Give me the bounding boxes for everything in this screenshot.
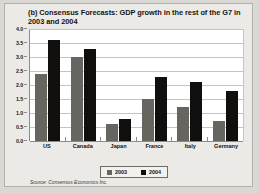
y-tick-label: 1.5 (16, 96, 23, 102)
bar-germany-2004 (226, 91, 238, 141)
bar-group (101, 30, 137, 141)
bar-france-2003 (142, 99, 154, 141)
x-tick-label-canada: Canada (65, 143, 101, 153)
chart-legend: 20032004 (100, 166, 168, 178)
y-tick-mark (24, 98, 27, 99)
bar-group (30, 30, 66, 141)
legend-item-2004: 2004 (141, 169, 161, 175)
y-tick-label: 0.0 (16, 138, 23, 144)
gridline (30, 141, 243, 142)
y-tick-mark (24, 84, 27, 85)
bar-canada-2003 (71, 57, 83, 141)
y-tick-label: 0.5 (16, 124, 23, 130)
x-tick-label-japan: Japan (101, 143, 137, 153)
y-tick-mark (24, 28, 27, 29)
legend-swatch-2004 (141, 170, 146, 175)
bar-us-2004 (48, 40, 60, 141)
y-tick-label: 2.0 (16, 82, 23, 88)
y-tick-mark (24, 140, 27, 141)
x-axis-labels: USCanadaJapanFranceItalyGermany (29, 143, 244, 153)
legend-item-2003: 2003 (107, 169, 127, 175)
bar-japan-2003 (106, 124, 118, 141)
chart-title: (b) Consensus Forecasts: GDP growth in t… (28, 8, 243, 27)
bar-group (137, 30, 173, 141)
source-note: Source: Consensus Economics Inc. (30, 179, 107, 185)
bar-group (208, 30, 244, 141)
x-tick-label-us: US (29, 143, 65, 153)
y-tick-label: 1.0 (16, 110, 23, 116)
bar-italy-2003 (177, 107, 189, 141)
y-tick-mark (24, 42, 27, 43)
y-tick-mark (24, 126, 27, 127)
legend-swatch-2003 (107, 170, 112, 175)
bar-italy-2004 (190, 82, 202, 141)
bar-us-2003 (35, 74, 47, 141)
y-tick-label: 4.0 (16, 26, 23, 32)
y-tick-mark (24, 70, 27, 71)
bar-groups (30, 30, 243, 141)
y-axis-labels: 0.00.51.01.52.02.53.03.54.0 (5, 29, 27, 141)
plot-area (29, 29, 244, 141)
bar-group (66, 30, 102, 141)
y-tick-label: 3.0 (16, 54, 23, 60)
bar-group (172, 30, 208, 141)
bar-france-2004 (155, 77, 167, 141)
legend-label-2003: 2003 (115, 169, 127, 175)
y-tick-mark (24, 56, 27, 57)
y-tick-mark (24, 112, 27, 113)
bar-germany-2003 (213, 121, 225, 141)
x-tick-label-germany: Germany (208, 143, 244, 153)
bar-japan-2004 (119, 119, 131, 141)
figure-panel: (b) Consensus Forecasts: GDP growth in t… (4, 3, 253, 187)
y-tick-label: 3.5 (16, 40, 23, 46)
x-tick-label-france: France (136, 143, 172, 153)
legend-label-2004: 2004 (149, 169, 161, 175)
bar-canada-2004 (84, 49, 96, 141)
x-tick-label-italy: Italy (172, 143, 208, 153)
y-tick-label: 2.5 (16, 68, 23, 74)
